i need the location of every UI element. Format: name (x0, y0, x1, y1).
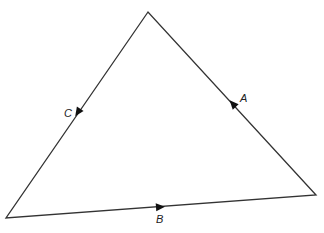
triangle (6, 12, 316, 218)
label-b: B (156, 213, 163, 225)
label-c: C (64, 107, 72, 119)
arrow-b-icon (156, 203, 166, 212)
triangle-diagram: C A B (0, 0, 324, 233)
label-a: A (239, 92, 247, 104)
